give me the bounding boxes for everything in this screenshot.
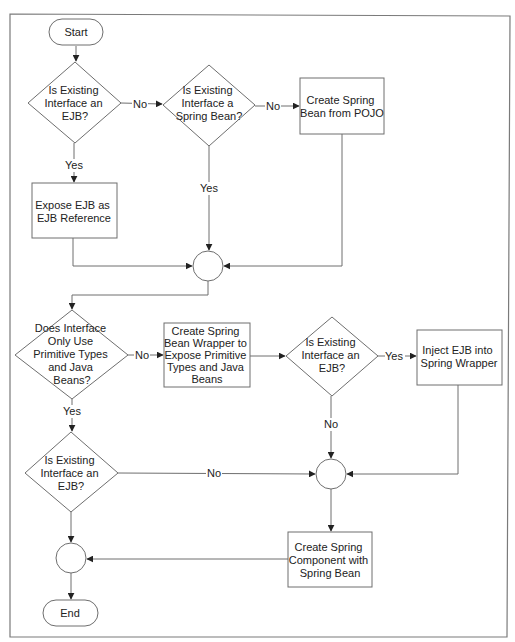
node-d4-line-2: Interface an: [301, 349, 359, 361]
svg-text:Create Spring Bean from: Create Spring Bean from POJO: [300, 94, 384, 119]
node-d2-line-3: Spring Bean?: [176, 110, 243, 122]
connectors: [71, 46, 458, 599]
node-inject-line-2: Spring Wrapper: [421, 357, 498, 369]
edge-labels: No Yes No Yes No Yes Yes No No: [62, 97, 405, 480]
node-merge-3: [56, 543, 86, 573]
node-d3-line-3: Primitive Types: [33, 348, 108, 360]
edge-label-d5-no: No: [207, 467, 221, 479]
node-pojo-line-1: Create Spring: [307, 94, 375, 106]
edge-label-d4-yes: Yes: [385, 350, 403, 362]
node-process-bean-from-pojo: Create Spring Bean from POJO: [300, 78, 384, 134]
node-decision-primitive-types: Does Interface Only Use Primitive Types …: [15, 310, 128, 399]
edge-m1-d3: [72, 281, 208, 309]
node-d1-line-1: Is Existing: [48, 84, 98, 96]
node-d3-line-2: Only Use: [48, 335, 93, 347]
edge-label-d2-yes: Yes: [200, 182, 218, 194]
svg-text:Expose EJB as EJB Refere: Expose EJB as EJB Reference: [35, 199, 113, 224]
node-process-bean-wrapper: Create Spring Bean Wrapper to Expose Pri…: [164, 323, 250, 387]
node-component-line-3: Spring Bean: [300, 567, 361, 579]
edge-label-d3-no: No: [135, 349, 149, 361]
node-expose-line-1: Expose EJB as: [35, 199, 110, 211]
node-d4-line-1: Is Existing: [305, 336, 355, 348]
node-wrapper-line-5: Beans: [191, 373, 223, 385]
node-start: Start: [49, 19, 103, 45]
node-expose-line-2: EJB Reference: [37, 212, 111, 224]
node-d3-line-5: Beans?: [53, 374, 90, 386]
node-d2-line-2: Interface a: [181, 97, 234, 109]
node-end: End: [43, 600, 98, 626]
node-merge-1: [193, 251, 223, 281]
node-decision-is-ejb-3: Is Existing Interface an EJB?: [25, 432, 118, 512]
node-d4-line-3: EJB?: [319, 362, 345, 374]
node-pojo-line-2: Bean from POJO: [300, 107, 384, 119]
node-process-expose-ejb: Expose EJB as EJB Reference: [32, 183, 117, 238]
node-wrapper-line-1: Create Spring: [172, 325, 240, 337]
node-d3-line-1: Does Interface: [35, 322, 107, 334]
edge-label-d1-no: No: [133, 98, 147, 110]
node-component-line-2: Component with: [289, 554, 369, 566]
node-decision-is-spring-bean: Is Existing Interface a Spring Bean?: [163, 65, 255, 146]
node-wrapper-line-2: Bean Wrapper to: [164, 337, 247, 349]
edge-label-d2-no: No: [266, 100, 280, 112]
edge-label-d3-yes: Yes: [63, 405, 81, 417]
node-decision-is-ejb-1: Is Existing Interface an EJB?: [28, 62, 121, 143]
node-process-spring-component: Create Spring Component with Spring Bean: [288, 532, 372, 587]
node-d1-line-2: Interface an: [44, 97, 102, 109]
node-component-line-1: Create Spring: [295, 541, 363, 553]
flowchart-canvas: No Yes No Yes No Yes Yes No No Start Is …: [0, 0, 515, 642]
node-decision-is-ejb-2: Is Existing Interface an EJB?: [286, 317, 378, 396]
node-end-label: End: [60, 607, 80, 619]
svg-text:Inject EJB into Spring W: Inject EJB into Spring Wrapper: [421, 344, 498, 369]
node-inject-line-1: Inject EJB into: [422, 344, 492, 356]
node-start-label: Start: [64, 26, 87, 38]
node-d5-line-3: EJB?: [58, 480, 84, 492]
edge-inject-m2: [347, 385, 458, 474]
node-d5-line-1: Is Existing: [44, 454, 94, 466]
node-d5-line-2: Interface an: [40, 467, 98, 479]
node-d2-line-1: Is Existing: [182, 84, 232, 96]
node-d1-line-3: EJB?: [62, 110, 88, 122]
node-d3-line-4: and Java: [48, 361, 94, 373]
edge-label-d4-no: No: [324, 418, 338, 430]
edge-expose-m1: [73, 238, 192, 266]
svg-text:Is Existing Interface a: Is Existing Interface a Spring Bean?: [176, 84, 243, 122]
node-merge-2: [316, 459, 346, 489]
svg-text:Create Spring Component: Create Spring Component with Spring Bean: [289, 541, 372, 579]
node-wrapper-line-3: Expose Primitive: [165, 349, 247, 361]
node-wrapper-line-4: Types and Java: [167, 361, 245, 373]
node-process-inject-ejb: Inject EJB into Spring Wrapper: [417, 330, 502, 385]
edge-label-d1-yes: Yes: [65, 159, 83, 171]
edge-pojo-m1: [224, 134, 342, 266]
